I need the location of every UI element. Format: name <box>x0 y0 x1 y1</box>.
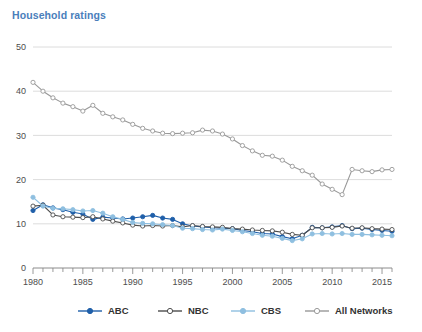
data-point-all-networks <box>370 170 374 174</box>
data-point-nbc <box>370 227 374 231</box>
data-point-all-networks <box>310 173 314 177</box>
data-point-abc <box>31 208 35 212</box>
data-point-cbs <box>171 223 175 227</box>
data-point-cbs <box>290 239 294 243</box>
data-point-cbs <box>240 230 244 234</box>
data-point-all-networks <box>200 128 204 132</box>
series-line-all-networks <box>33 82 392 194</box>
legend-marker-cbs <box>240 308 245 313</box>
data-point-all-networks <box>240 143 244 147</box>
legend-label-abc[interactable]: ABC <box>108 305 129 316</box>
data-point-cbs <box>41 204 45 208</box>
data-point-nbc <box>290 232 294 236</box>
x-axis-tick-label: 1985 <box>73 277 93 287</box>
legend-marker-all-networks <box>314 308 319 313</box>
data-point-cbs <box>220 227 224 231</box>
data-point-all-networks <box>141 126 145 130</box>
legend-label-cbs[interactable]: CBS <box>261 305 281 316</box>
data-point-abc <box>161 216 165 220</box>
data-point-cbs <box>280 236 284 240</box>
data-point-all-networks <box>220 132 224 136</box>
data-point-all-networks <box>161 131 165 135</box>
data-point-abc <box>171 217 175 221</box>
data-point-nbc <box>350 226 354 230</box>
data-point-cbs <box>121 217 125 221</box>
data-point-all-networks <box>340 193 344 197</box>
data-point-all-networks <box>121 118 125 122</box>
data-point-all-networks <box>260 153 264 157</box>
data-point-cbs <box>210 228 214 232</box>
data-point-all-networks <box>280 158 284 162</box>
data-point-abc <box>151 213 155 217</box>
data-point-cbs <box>81 209 85 213</box>
data-point-nbc <box>31 204 35 208</box>
data-point-nbc <box>340 224 344 228</box>
chart-plot-area: 0102030405019801985199019952000200520102… <box>0 0 422 332</box>
data-point-cbs <box>141 221 145 225</box>
x-axis-tick-label: 1995 <box>173 277 193 287</box>
data-point-all-networks <box>230 137 234 141</box>
legend-marker-abc <box>87 308 92 313</box>
data-point-all-networks <box>81 109 85 113</box>
data-point-cbs <box>101 211 105 215</box>
data-point-nbc <box>91 215 95 219</box>
data-point-nbc <box>270 229 274 233</box>
data-point-nbc <box>61 215 65 219</box>
data-point-all-networks <box>380 168 384 172</box>
data-point-all-networks <box>31 80 35 84</box>
data-point-all-networks <box>131 122 135 126</box>
x-axis-tick-label: 1980 <box>23 277 43 287</box>
data-point-all-networks <box>390 167 394 171</box>
legend-label-all-networks[interactable]: All Networks <box>335 305 393 316</box>
data-point-all-networks <box>250 149 254 153</box>
data-point-nbc <box>280 230 284 234</box>
y-axis-tick-label: 0 <box>21 263 26 273</box>
data-point-all-networks <box>300 169 304 173</box>
data-point-cbs <box>71 208 75 212</box>
series-line-cbs <box>33 197 392 240</box>
data-point-nbc <box>111 219 115 223</box>
data-point-cbs <box>91 208 95 212</box>
data-point-cbs <box>230 228 234 232</box>
data-point-cbs <box>370 233 374 237</box>
data-point-nbc <box>380 227 384 231</box>
x-axis-tick-label: 2015 <box>372 277 392 287</box>
x-axis-tick-label: 2000 <box>222 277 242 287</box>
data-point-nbc <box>101 217 105 221</box>
data-point-all-networks <box>111 115 115 119</box>
data-point-cbs <box>51 206 55 210</box>
data-point-cbs <box>151 222 155 226</box>
data-point-nbc <box>310 226 314 230</box>
data-point-all-networks <box>71 105 75 109</box>
data-point-all-networks <box>101 111 105 115</box>
data-point-cbs <box>380 233 384 237</box>
data-point-cbs <box>161 223 165 227</box>
data-point-all-networks <box>151 129 155 133</box>
data-point-abc <box>131 216 135 220</box>
data-point-cbs <box>390 234 394 238</box>
data-point-cbs <box>200 227 204 231</box>
data-point-abc <box>141 215 145 219</box>
data-point-cbs <box>320 231 324 235</box>
data-point-all-networks <box>320 182 324 186</box>
data-point-all-networks <box>91 103 95 107</box>
data-point-all-networks <box>330 187 334 191</box>
y-axis-tick-label: 40 <box>16 86 26 96</box>
legend-label-nbc[interactable]: NBC <box>188 305 209 316</box>
data-point-all-networks <box>270 154 274 158</box>
data-point-all-networks <box>180 131 184 135</box>
data-point-nbc <box>360 226 364 230</box>
data-point-all-networks <box>61 101 65 105</box>
x-axis-tick-label: 2010 <box>322 277 342 287</box>
data-point-cbs <box>250 231 254 235</box>
data-point-all-networks <box>350 167 354 171</box>
y-axis-tick-label: 30 <box>16 131 26 141</box>
x-axis-tick-label: 2005 <box>272 277 292 287</box>
data-point-all-networks <box>210 129 214 133</box>
data-point-cbs <box>180 226 184 230</box>
data-point-cbs <box>61 207 65 211</box>
data-point-cbs <box>330 232 334 236</box>
data-point-cbs <box>111 215 115 219</box>
data-point-cbs <box>360 232 364 236</box>
data-point-nbc <box>320 226 324 230</box>
